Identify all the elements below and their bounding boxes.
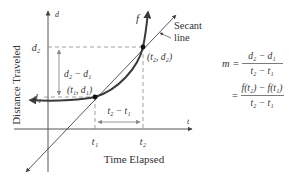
formula-den2: t₂ − t₁ — [250, 98, 273, 108]
formula-num2: f(t₂) − f(t₁) — [242, 83, 283, 94]
point-t2-d2 — [141, 45, 146, 50]
rise-label: d₂ − d₁ — [64, 69, 91, 79]
formula-eq2: = — [232, 90, 238, 101]
d1-tick-label: d₁ — [33, 92, 41, 103]
point-t1-d1-label: (t₁, d₁) — [67, 85, 92, 96]
curve-f-label: f — [136, 12, 141, 24]
t1-tick-label: t₁ — [92, 136, 98, 147]
run-label: t₂ − t₁ — [107, 106, 130, 116]
y-axis-title: Distance Traveled — [10, 45, 22, 125]
slope-formula: m = d₂ − d₁ t₂ − t₁ = f(t₂) − f(t₁) t₂ −… — [222, 51, 284, 108]
point-t1-d1 — [93, 95, 98, 100]
formula-lhs: m = — [222, 58, 239, 69]
t-axis-label: t — [187, 117, 190, 126]
formula-num1: d₂ − d₁ — [248, 51, 275, 61]
secant-label-line1: Secant — [174, 20, 202, 31]
x-axis-title: Time Elapsed — [104, 153, 165, 165]
t2-tick-label: t₂ — [140, 136, 147, 147]
secant-pointer — [160, 33, 171, 38]
point-t2-d2-label: (t₂, d₂) — [147, 52, 172, 63]
d2-tick-label: d₂ — [32, 42, 41, 53]
d-axis-label: d — [55, 10, 60, 19]
secant-line-diagram: d t f Secant line (t₂, d₂) (t₁, d₁) d₂ d… — [0, 0, 303, 181]
secant-label-line2: line — [174, 32, 190, 43]
formula-den1: t₂ − t₁ — [250, 66, 273, 76]
